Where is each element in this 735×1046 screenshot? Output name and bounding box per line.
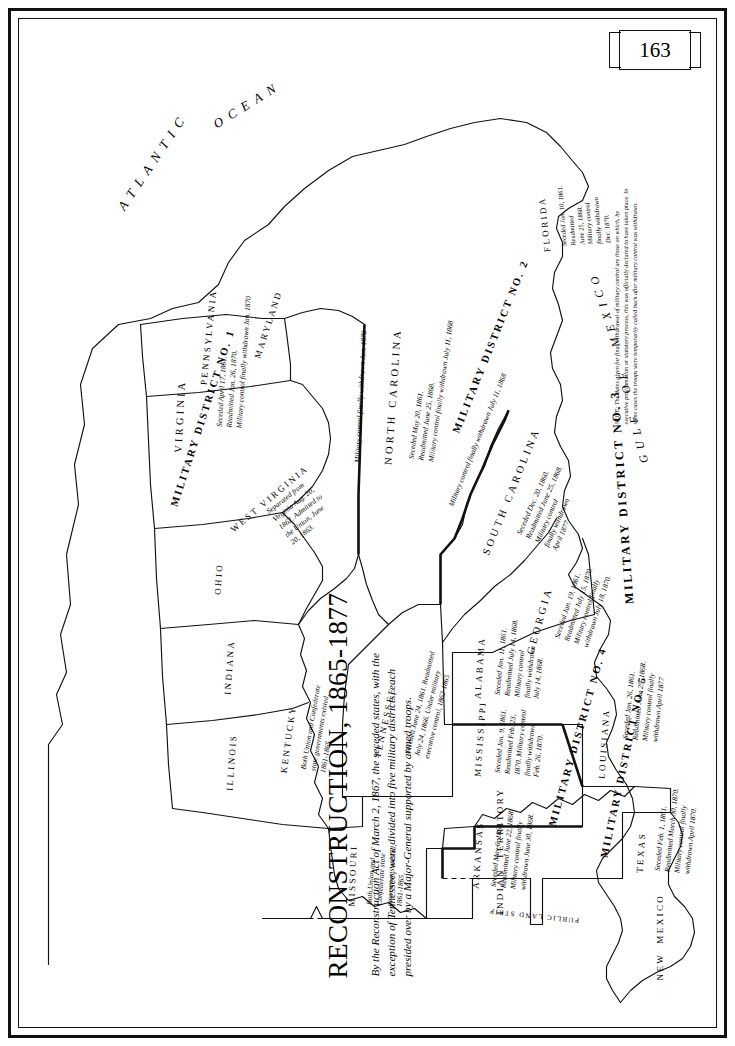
state-annotation-alabama: Seceded Jan. 11, 1861. Readmitted July 1… <box>492 617 549 699</box>
state-annotation-florida: Seceded Jan. 10, 1861. Readmitted June 2… <box>556 182 613 246</box>
map-rotated-content: RECONSTRUCTION, 1865-1877 By the Reconst… <box>22 22 713 1024</box>
state-label-new-mexico: NEW MEXICO <box>654 893 665 980</box>
state-label-texas: TEXAS <box>634 831 647 873</box>
map-note-label: NOTE: <box>612 406 619 424</box>
map-stage: RECONSTRUCTION, 1865-1877 By the Reconst… <box>22 22 713 1024</box>
state-annotation-missouri: Both Union and Confederate state governm… <box>364 842 408 907</box>
map-page: 163 <box>0 0 735 1046</box>
state-annotation-texas: Seceded Feb. 1, 1861. Readmitted March 3… <box>652 786 700 874</box>
page-title: RECONSTRUCTION, 1865-1877 <box>322 592 354 978</box>
map-note-text: The dates given for final withdrawal of … <box>612 188 637 424</box>
state-annotation-mississippi: Seceded Jan. 9, 1861. Readmitted Feb. 23… <box>492 707 548 777</box>
state-label-ohio: OHIO <box>212 562 225 595</box>
state-label-missouri: MISSOURI <box>346 844 359 907</box>
state-annotation-arkansas: Seceded May 6, 1861. Readmitted June 22,… <box>488 807 535 890</box>
map-note: NOTE: The dates given for final withdraw… <box>612 188 638 424</box>
